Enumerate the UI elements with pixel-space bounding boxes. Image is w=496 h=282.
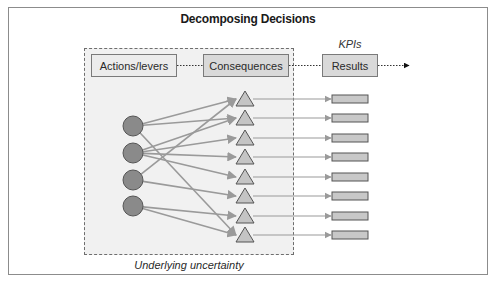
action-nodes [123,116,143,216]
consequence-triangle-node [236,188,254,203]
consequence-triangle-node [236,130,254,145]
action-circle-node [123,170,143,190]
edge [143,207,236,216]
result-bar-node [332,173,368,181]
edge [143,209,236,235]
consequence-triangle-node [236,169,254,184]
consequence-triangle-node [236,208,254,223]
result-bar-node [332,231,368,239]
result-bar-node [332,212,368,220]
action-consequence-edges [140,99,236,235]
decision-graph [0,0,496,282]
consequence-result-edges [253,99,331,235]
result-nodes [332,95,368,239]
edge [143,153,236,157]
result-bar-node [332,153,368,161]
action-circle-node [123,196,143,216]
action-circle-node [123,116,143,136]
result-bar-node [332,134,368,142]
consequence-triangle-node [236,149,254,164]
result-bar-node [332,192,368,200]
edge [143,155,236,177]
consequence-nodes [236,91,254,242]
result-bar-node [332,95,368,103]
consequence-triangle-node [236,91,254,106]
consequence-triangle-node [236,227,254,242]
result-bar-node [332,114,368,122]
edge [143,99,236,124]
action-circle-node [123,143,143,163]
consequence-triangle-node [236,110,254,125]
edge [141,99,236,174]
edge [143,181,236,196]
